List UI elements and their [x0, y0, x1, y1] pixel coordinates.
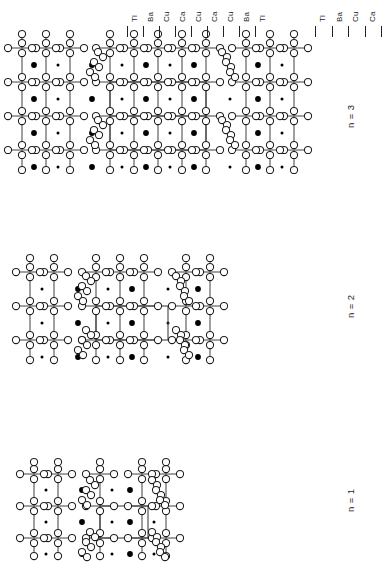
lattice-n3 — [0, 0, 320, 192]
layer-label-cu-n3-2: Cu — [162, 11, 171, 22]
layer-tick-n2-1 — [332, 26, 333, 37]
layer-tick-n2-3 — [365, 26, 366, 37]
layer-label-ba-n3-7: Ba — [242, 12, 251, 22]
layer-label-tl-n3-0: Tl — [130, 15, 139, 22]
layer-label-cu-n3-6: Cu — [226, 11, 235, 22]
layer-tick-n3-0 — [127, 26, 128, 37]
layer-label-ba-n2-1: Ba — [335, 12, 344, 22]
layer-tick-n3-6 — [223, 26, 224, 37]
layer-tick-n2-0 — [315, 26, 316, 37]
panel-caption-n3: n = 3 — [345, 105, 356, 128]
structure-panel-n2 — [0, 232, 320, 397]
layer-label-cu-n3-4: Cu — [194, 11, 203, 22]
layer-label-ca-n3-3: Ca — [178, 11, 187, 22]
layer-tick-n2-4 — [381, 26, 382, 37]
layer-label-ca-n2-3: Ca — [368, 11, 377, 22]
lattice-n1 — [0, 440, 320, 577]
figure-canvas: TlBaCuCaCuCaCuBaTl n = 3 TlBaCuCaCuBaTl … — [0, 0, 383, 577]
layer-label-tl-n3-8: Tl — [258, 15, 267, 22]
layer-tick-n3-8 — [255, 26, 256, 37]
layer-tick-n2-2 — [348, 26, 349, 37]
layer-tick-n3-4 — [191, 26, 192, 37]
lattice-n2 — [0, 232, 320, 397]
layer-label-ca-n3-5: Ca — [210, 11, 219, 22]
layer-tick-n3-1 — [143, 26, 144, 37]
layer-label-cu-n2-2: Cu — [351, 11, 360, 22]
layer-tick-n3-3 — [175, 26, 176, 37]
layer-tick-n3-7 — [239, 26, 240, 37]
layer-label-ba-n3-1: Ba — [146, 12, 155, 22]
structure-panel-n3 — [0, 0, 320, 192]
layer-tick-n3-5 — [207, 26, 208, 37]
layer-tick-n3-2 — [159, 26, 160, 37]
structure-panel-n1 — [0, 440, 320, 577]
panel-caption-n2: n = 2 — [345, 295, 356, 318]
layer-label-tl-n2-0: Tl — [318, 15, 327, 22]
panel-caption-n1: n = 1 — [345, 489, 356, 512]
